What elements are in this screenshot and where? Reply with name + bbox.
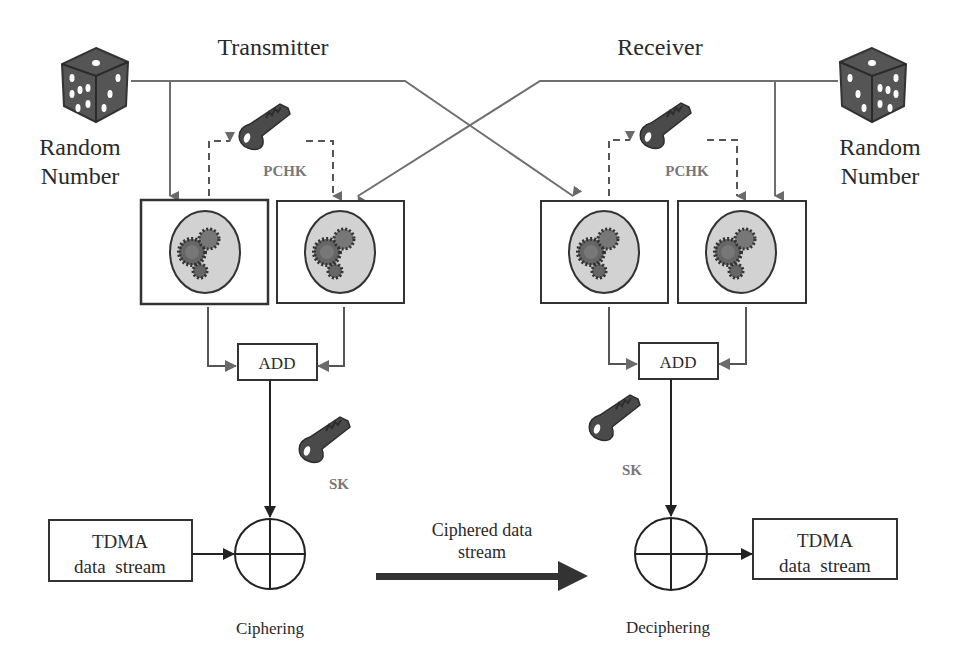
xor-ciphering [235, 519, 305, 589]
gears-icon [569, 211, 639, 293]
key-icon [589, 395, 640, 441]
random-number-right-line2: Number [841, 163, 920, 189]
receiver-title: Receiver [617, 34, 702, 60]
key-icon [299, 417, 350, 463]
deciphering-caption: Deciphering [626, 618, 711, 637]
transmitter-title: Transmitter [217, 34, 328, 60]
processor-block-4 [678, 201, 806, 303]
sk-left-label: SK [329, 476, 349, 492]
gears-icon [305, 211, 375, 293]
sk-right-label: SK [622, 462, 642, 478]
pchk-left-label: PCHK [263, 163, 307, 179]
processor-block-2 [277, 201, 404, 303]
gears-icon [706, 211, 776, 293]
processor-block-3 [541, 201, 668, 303]
random-number-left-line2: Number [41, 163, 120, 189]
dice-icon [840, 48, 906, 122]
ciphered-stream-arrow [376, 561, 588, 591]
encryption-diagram: Transmitter Receiver Random Number Rando… [0, 0, 957, 664]
tdma-right-line1: TDMA [797, 530, 853, 551]
tx-random-to-rx-line [131, 81, 573, 196]
random-number-right-line1: Random [839, 134, 921, 160]
random-number-left-line1: Random [39, 134, 121, 160]
ciphering-caption: Ciphering [236, 619, 304, 638]
key-icon [239, 104, 290, 150]
key-icon [640, 103, 691, 149]
gears-icon [170, 211, 240, 293]
pchk-right-label: PCHK [665, 163, 709, 179]
tdma-left-line1: TDMA [92, 531, 148, 552]
channel-label-line1: Ciphered data [432, 520, 532, 540]
xor-deciphering [635, 518, 707, 590]
dice-icon [62, 48, 128, 122]
add-left-label: ADD [259, 354, 296, 373]
add-right-label: ADD [660, 353, 697, 372]
channel-label-line2: stream [458, 542, 506, 562]
tdma-right-line2: data stream [779, 555, 871, 576]
tdma-left-line2: data stream [74, 556, 166, 577]
processor-block-1 [141, 200, 268, 304]
